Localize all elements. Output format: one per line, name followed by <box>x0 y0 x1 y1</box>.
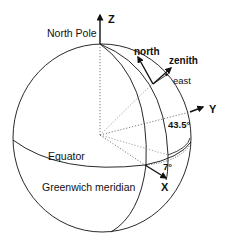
center-to-projection-dotted <box>100 135 168 155</box>
equator-back-dotted <box>100 135 145 165</box>
sphere-outline <box>13 44 191 232</box>
y-axis-label: Y <box>209 103 217 115</box>
north-pole-label: North Pole <box>47 27 97 39</box>
east-label: east <box>173 75 191 86</box>
x-axis-label: X <box>161 181 169 193</box>
zenith-vector-arrow <box>153 68 171 84</box>
longitude-angle-label: 7° <box>163 161 172 172</box>
north-label: north <box>134 46 160 57</box>
latitude-angle-label: 43.5° <box>168 119 190 130</box>
east-vector-arrow <box>153 74 168 84</box>
zenith-label: zenith <box>169 55 198 66</box>
center-to-observer-dotted <box>100 84 152 135</box>
equator-label: Equator <box>48 150 85 162</box>
z-axis-label: Z <box>108 13 115 25</box>
y-axis-arrow <box>190 107 203 112</box>
greenwich-meridian-line <box>100 44 146 232</box>
north-vector-arrow <box>138 57 153 84</box>
greenwich-meridian-label: Greenwich meridian <box>42 181 136 193</box>
earth-coordinate-diagram: North Pole Z north zenith east Y 43.5° E… <box>0 0 227 245</box>
